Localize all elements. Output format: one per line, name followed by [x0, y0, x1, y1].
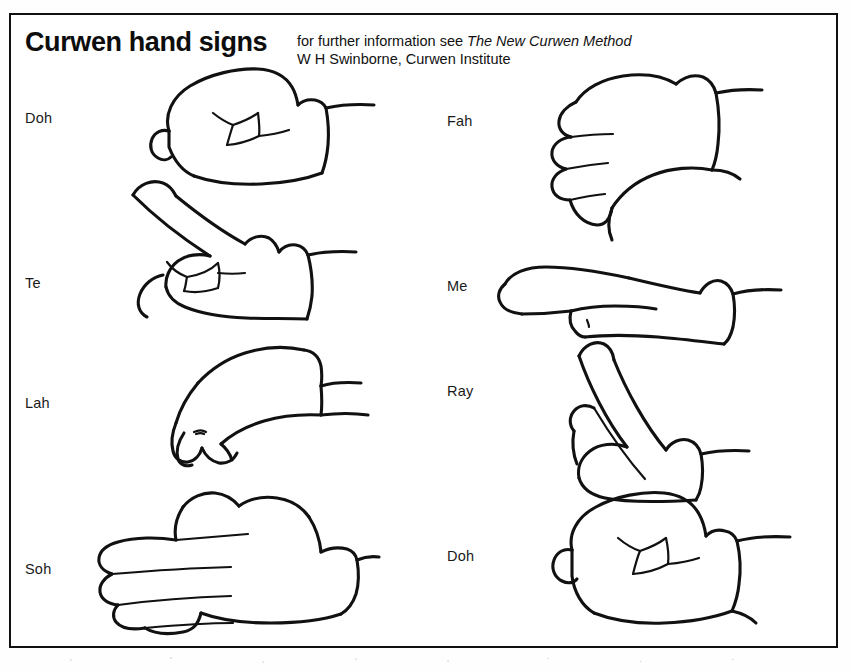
sign-me: Me	[431, 240, 831, 350]
sign-label-me: Me	[447, 278, 468, 294]
sign-label-fah: Fah	[447, 113, 473, 129]
sign-lah: Lah	[11, 335, 431, 465]
page-title: Curwen hand signs	[25, 27, 267, 58]
sign-fah: Fah	[431, 55, 831, 215]
sign-te: Te	[11, 170, 431, 320]
sign-label-lah: Lah	[25, 395, 50, 411]
sign-label-doh-upper: Doh	[25, 110, 52, 126]
hand-art-flat-hand-edge-on	[489, 240, 789, 350]
hand-art-hand-angled-up-diagonal	[511, 335, 801, 495]
subtitle-prefix: for further information see	[297, 33, 467, 49]
sign-ray: Ray	[431, 335, 831, 485]
hand-art-flat-hand-palm-down	[83, 480, 373, 630]
sign-label-doh-lower: Doh	[447, 548, 474, 564]
hand-art-fist-closed-lower	[536, 480, 826, 630]
hand-art-index-pointing-up-diagonal	[106, 170, 376, 320]
diagram-frame: Curwen hand signs for further informatio…	[9, 13, 838, 648]
scan-artifact	[40, 655, 810, 665]
sign-doh-lower: Doh	[431, 480, 831, 630]
sign-label-soh: Soh	[25, 561, 51, 577]
hand-art-hand-limp-hanging-down	[106, 335, 376, 465]
book-title: The New Curwen Method	[467, 33, 631, 49]
hand-art-thumb-pointing-down	[511, 55, 801, 225]
sign-label-te: Te	[25, 275, 41, 291]
sign-label-ray: Ray	[447, 383, 473, 399]
sign-soh: Soh	[11, 480, 431, 630]
sign-doh-upper: Doh	[11, 55, 431, 185]
scanned-page: Curwen hand signs for further informatio…	[0, 0, 852, 672]
subtitle-line-1: for further information see The New Curw…	[297, 32, 631, 50]
hand-art-fist-closed-upper	[106, 55, 376, 185]
